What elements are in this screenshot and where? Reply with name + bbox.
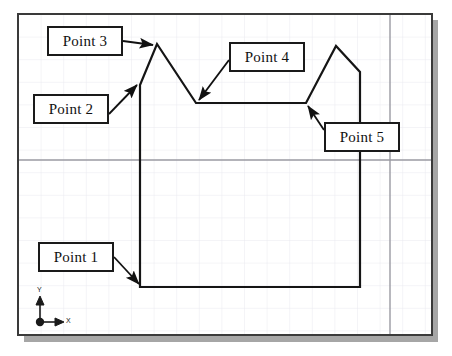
- callout-point-4-label: Point 4: [245, 49, 289, 66]
- callout-point-5[interactable]: Point 5: [324, 122, 400, 152]
- callout-point-4[interactable]: Point 4: [229, 42, 305, 72]
- callout-point-3-label: Point 3: [63, 33, 107, 50]
- callout-point-5-label: Point 5: [340, 129, 384, 146]
- callout-point-2[interactable]: Point 2: [33, 94, 109, 124]
- callout-point-1-label: Point 1: [54, 249, 98, 266]
- drawing-canvas: Y X Point 3 Point 2 Point 4 Point 5 Poin…: [0, 0, 452, 356]
- ucs-y-label: Y: [37, 286, 42, 293]
- callout-point-2-label: Point 2: [49, 101, 93, 118]
- callout-point-1[interactable]: Point 1: [38, 242, 114, 272]
- ucs-x-label: X: [66, 317, 71, 324]
- ucs-origin-dot: [36, 318, 44, 326]
- callout-point-3[interactable]: Point 3: [47, 26, 123, 56]
